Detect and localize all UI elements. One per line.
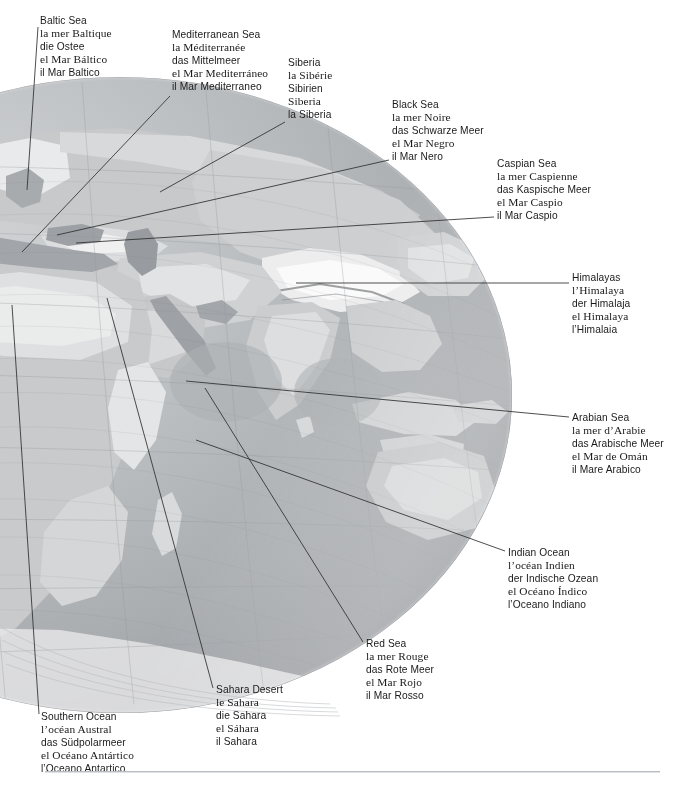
label-red-sea: Red Seala mer Rougedas Rote Meerel Mar R… <box>366 637 434 702</box>
label-arabian-sea: Arabian Seala mer d’Arabiedas Arabische … <box>572 411 664 476</box>
label-arabian-sea-fr: la mer d’Arabie <box>572 424 664 437</box>
label-sahara-desert: Sahara Desertle Saharadie Saharael Sáhar… <box>216 683 283 748</box>
label-sahara-desert-en: Sahara Desert <box>216 683 283 696</box>
label-mediterranean-sea-it: il Mar Mediterraneo <box>172 80 268 93</box>
label-sahara-desert-fr: le Sahara <box>216 696 283 709</box>
label-red-sea-fr: la mer Rouge <box>366 650 434 663</box>
label-himalayas-fr: l’Himalaya <box>572 284 630 297</box>
label-arabian-sea-it: il Mare Arabico <box>572 463 664 476</box>
label-red-sea-es: el Mar Rojo <box>366 676 434 689</box>
footer-rule <box>45 771 660 773</box>
label-baltic-sea-fr: la mer Baltique <box>40 27 112 40</box>
label-baltic-sea-de: die Ostee <box>40 40 112 53</box>
label-himalayas-de: der Himalaja <box>572 297 630 310</box>
label-sahara-desert-it: il Sahara <box>216 735 283 748</box>
label-indian-ocean-fr: l’océan Indien <box>508 559 598 572</box>
label-indian-ocean: Indian Oceanl’océan Indiender Indische O… <box>508 546 598 611</box>
label-black-sea-it: il Mar Nero <box>392 150 484 163</box>
label-red-sea-en: Red Sea <box>366 637 434 650</box>
label-arabian-sea-en: Arabian Sea <box>572 411 664 424</box>
label-siberia-it: la Siberia <box>288 108 332 121</box>
label-indian-ocean-it: l’Oceano Indiano <box>508 598 598 611</box>
globe-surface <box>0 77 528 720</box>
label-himalayas-es: el Himalaya <box>572 310 630 323</box>
label-southern-ocean-en: Southern Ocean <box>41 710 134 723</box>
label-red-sea-it: il Mar Rosso <box>366 689 434 702</box>
label-southern-ocean-de: das Südpolarmeer <box>41 736 134 749</box>
label-arabian-sea-de: das Arabische Meer <box>572 437 664 450</box>
label-southern-ocean-fr: l’océan Austral <box>41 723 134 736</box>
label-baltic-sea-en: Baltic Sea <box>40 14 112 27</box>
label-baltic-sea-it: il Mar Baltico <box>40 66 112 79</box>
label-southern-ocean-es: el Océano Antártico <box>41 749 134 762</box>
label-black-sea-de: das Schwarze Meer <box>392 124 484 137</box>
label-black-sea-es: el Mar Negro <box>392 137 484 150</box>
label-caspian-sea-en: Caspian Sea <box>497 157 591 170</box>
label-sahara-desert-de: die Sahara <box>216 709 283 722</box>
label-black-sea: Black Seala mer Noiredas Schwarze Meerel… <box>392 98 484 163</box>
label-southern-ocean-it: l’Oceano Antartico <box>41 762 134 775</box>
label-caspian-sea-fr: la mer Caspienne <box>497 170 591 183</box>
label-southern-ocean: Southern Oceanl’océan Australdas Südpola… <box>41 710 134 775</box>
label-baltic-sea-es: el Mar Báltico <box>40 53 112 66</box>
label-siberia-fr: la Sibérie <box>288 69 332 82</box>
label-mediterranean-sea-es: el Mar Mediterráneo <box>172 67 268 80</box>
label-himalayas-it: l’Himalaia <box>572 323 630 336</box>
label-mediterranean-sea-en: Mediterranean Sea <box>172 28 268 41</box>
label-baltic-sea: Baltic Seala mer Baltiquedie Osteeel Mar… <box>40 14 112 79</box>
label-himalayas-en: Himalayas <box>572 271 630 284</box>
label-red-sea-de: das Rote Meer <box>366 663 434 676</box>
label-arabian-sea-es: el Mar de Omán <box>572 450 664 463</box>
label-caspian-sea-es: el Mar Caspio <box>497 196 591 209</box>
label-indian-ocean-en: Indian Ocean <box>508 546 598 559</box>
label-mediterranean-sea-fr: la Méditerranée <box>172 41 268 54</box>
label-indian-ocean-de: der Indische Ozean <box>508 572 598 585</box>
shaded-relief-globe <box>0 0 675 788</box>
label-siberia: Siberiala SibérieSibirienSiberiala Siber… <box>288 56 332 121</box>
screenshot-canvas: Baltic Seala mer Baltiquedie Osteeel Mar… <box>0 0 675 788</box>
label-black-sea-en: Black Sea <box>392 98 484 111</box>
label-black-sea-fr: la mer Noire <box>392 111 484 124</box>
globe-container <box>0 0 675 788</box>
label-caspian-sea-de: das Kaspische Meer <box>497 183 591 196</box>
label-caspian-sea-it: il Mar Caspio <box>497 209 591 222</box>
label-sahara-desert-es: el Sáhara <box>216 722 283 735</box>
label-mediterranean-sea: Mediterranean Seala Méditerranéedas Mitt… <box>172 28 268 93</box>
label-siberia-es: Siberia <box>288 95 332 108</box>
label-siberia-de: Sibirien <box>288 82 332 95</box>
label-indian-ocean-es: el Océano Índico <box>508 585 598 598</box>
label-mediterranean-sea-de: das Mittelmeer <box>172 54 268 67</box>
label-caspian-sea: Caspian Seala mer Caspiennedas Kaspische… <box>497 157 591 222</box>
label-siberia-en: Siberia <box>288 56 332 69</box>
label-himalayas: Himalayasl’Himalayader Himalajael Himala… <box>572 271 630 336</box>
